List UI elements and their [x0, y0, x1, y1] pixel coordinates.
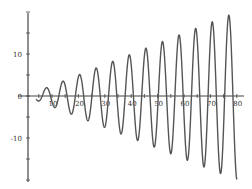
x-tick-label: 40	[128, 100, 137, 108]
data-series-line	[36, 15, 237, 179]
y-tick-label: 0	[18, 93, 22, 101]
y-tick-label: -10	[11, 135, 22, 143]
x-tick-label: 60	[181, 100, 190, 108]
line-chart: 1020304050607080 100-10	[0, 0, 252, 189]
y-tick-label: 10	[13, 51, 22, 59]
x-tick-label: 30	[101, 100, 110, 108]
y-ticks: 100-10	[11, 12, 30, 180]
x-tick-label: 20	[75, 100, 84, 108]
x-tick-label: 80	[233, 100, 242, 108]
